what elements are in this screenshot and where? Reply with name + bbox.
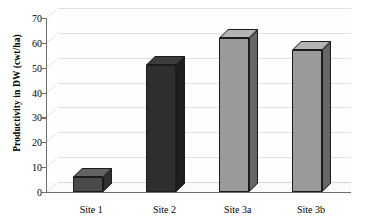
- y-tick-label: 10: [32, 162, 42, 173]
- y-tick-label: 70: [32, 13, 42, 24]
- y-tick-mark: [42, 43, 46, 44]
- gridline: [58, 33, 351, 34]
- bar-front-face: [73, 177, 103, 192]
- y-tick-mark: [42, 167, 46, 168]
- y-tick-label: 50: [32, 62, 42, 73]
- y-axis-title: Productivity in DW (cwt/ha): [12, 8, 22, 178]
- x-tick-label: Site 3a: [224, 204, 252, 215]
- bar-front-face: [292, 50, 322, 192]
- y-tick-mark: [42, 192, 46, 193]
- bar-front-face: [146, 65, 176, 192]
- y-tick-label: 30: [32, 112, 42, 123]
- y-tick-label: 60: [32, 37, 42, 48]
- y-tick-label: 0: [37, 187, 42, 198]
- bar[interactable]: [219, 38, 249, 192]
- y-tick-mark: [42, 117, 46, 118]
- gridline: [58, 8, 351, 9]
- bar-side-face: [249, 29, 258, 192]
- y-tick-label: 20: [32, 137, 42, 148]
- y-tick-mark: [42, 93, 46, 94]
- x-tick-label: Site 2: [153, 204, 176, 215]
- bar-side-face: [176, 57, 185, 192]
- x-tick-label: Site 1: [80, 204, 103, 215]
- x-axis-line: [46, 192, 351, 193]
- y-axis-line: [46, 18, 47, 192]
- x-tick-label: Site 3b: [297, 204, 325, 215]
- bar[interactable]: [292, 50, 322, 192]
- bar-side-face: [322, 42, 331, 192]
- y-tick-mark: [42, 142, 46, 143]
- y-tick-mark: [42, 68, 46, 69]
- bar[interactable]: [73, 177, 103, 192]
- y-tick-label: 40: [32, 87, 42, 98]
- bar-chart: Productivity in DW (cwt/ha) 010203040506…: [0, 0, 365, 223]
- y-tick-mark: [42, 18, 46, 19]
- bar[interactable]: [146, 65, 176, 192]
- bar-front-face: [219, 38, 249, 192]
- plot-area: 010203040506070 Site 1Site 2Site 3aSite …: [46, 8, 351, 193]
